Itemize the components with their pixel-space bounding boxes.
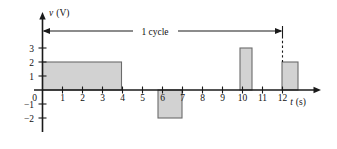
pulse-bar-3: [240, 48, 252, 90]
x-label-9: 9: [220, 93, 225, 103]
x-label-6: 6: [160, 93, 165, 103]
y-axis-arrowhead: [39, 12, 45, 20]
y-label-2: 2: [29, 58, 34, 68]
y-label-minus2: −2: [24, 114, 34, 124]
y-axis-title: v(V): [49, 8, 69, 19]
x-label-3: 3: [100, 93, 105, 103]
x-label-11: 11: [258, 93, 267, 103]
pulse-bar-4: [282, 62, 298, 90]
y-label-1: 1: [29, 72, 34, 82]
x-label-4: 4: [120, 93, 125, 103]
x-axis-arrowhead: [314, 87, 322, 93]
cycle-arrow-left-head: [43, 28, 51, 34]
voltage-waveform-chart: 1 cycle v(V) t(s) 3 2 1 0 −1 −2 1 2 3 4 …: [0, 0, 337, 149]
x-label-5: 5: [140, 93, 145, 103]
x-label-2: 2: [80, 93, 85, 103]
x-label-1: 1: [60, 93, 65, 103]
waveform-figure: 1 cycle v(V) t(s) 3 2 1 0 −1 −2 1 2 3 4 …: [0, 0, 337, 149]
x-label-10: 10: [238, 93, 248, 103]
cycle-arrow-right-head: [275, 28, 283, 34]
pulse-bar-1: [43, 62, 122, 90]
x-label-7: 7: [180, 93, 185, 103]
x-label-12: 12: [278, 93, 288, 103]
y-label-minus1: −1: [24, 100, 34, 110]
cycle-label: 1 cycle: [141, 27, 168, 37]
x-label-8: 8: [200, 93, 205, 103]
y-label-3: 3: [29, 44, 34, 54]
x-axis-title: t(s): [290, 97, 306, 108]
